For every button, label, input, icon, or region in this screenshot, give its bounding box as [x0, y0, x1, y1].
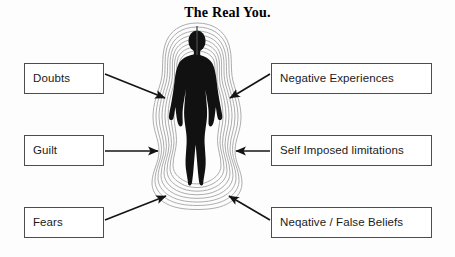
label-box-fears[interactable]: Fears	[24, 207, 104, 238]
arrow-fears	[105, 196, 166, 220]
arrow-negative-experiences	[230, 74, 270, 98]
label-box-negative-false-beliefs[interactable]: Neqative / False Beliefs	[271, 207, 432, 238]
label-box-negative-experiences[interactable]: Negative Experiences	[271, 63, 432, 94]
label-text-self-imposed-limitations: Self Imposed limitations	[280, 145, 404, 157]
label-text-doubts: Doubts	[33, 73, 70, 85]
arrow-negative-false-beliefs	[229, 196, 270, 220]
label-text-guilt: Guilt	[33, 145, 57, 157]
label-text-negative-experiences: Negative Experiences	[280, 73, 394, 85]
label-text-fears: Fears	[33, 217, 63, 229]
label-box-self-imposed-limitations[interactable]: Self Imposed limitations	[271, 135, 432, 166]
label-box-guilt[interactable]: Guilt	[24, 135, 104, 166]
arrow-doubts	[105, 74, 165, 98]
diagram-canvas: The Real You. Doubts Guilt Fears Negativ…	[0, 0, 455, 257]
diagram-title: The Real You.	[0, 5, 455, 21]
label-text-negative-false-beliefs: Neqative / False Beliefs	[280, 217, 403, 229]
label-box-doubts[interactable]: Doubts	[24, 63, 104, 94]
